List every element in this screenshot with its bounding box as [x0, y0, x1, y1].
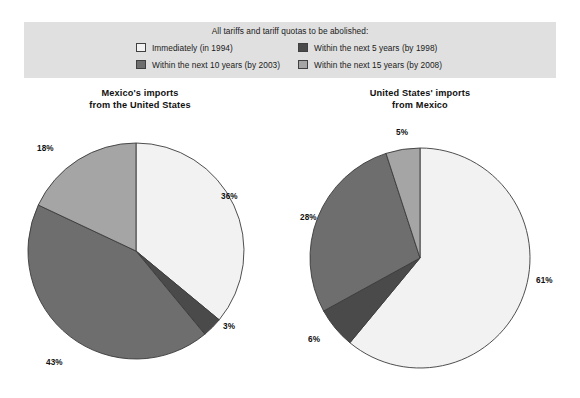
- pie-right-label-five-years: 6%: [308, 335, 320, 344]
- legend-row: Within the next 10 years (by 2003) Withi…: [136, 56, 556, 73]
- legend-label-fifteen-years: Within the next 15 years (by 2008): [314, 60, 442, 70]
- pie-right-label-fifteen-years: 5%: [396, 128, 408, 137]
- chart-title-right-line1: United States' imports: [330, 88, 510, 100]
- legend-swatch-five-years: [298, 43, 308, 52]
- legend-row: Immediately (in 1994) Within the next 5 …: [136, 39, 556, 56]
- pie-left-svg: [18, 130, 268, 380]
- legend-label-immediately: Immediately (in 1994): [152, 43, 233, 53]
- chart-title-right-line2: from Mexico: [330, 100, 510, 112]
- legend-swatch-immediately: [136, 43, 146, 52]
- legend-item-ten-years: Within the next 10 years (by 2003): [136, 56, 298, 73]
- legend-grid: Immediately (in 1994) Within the next 5 …: [136, 39, 556, 73]
- legend-swatch-ten-years: [136, 60, 146, 69]
- chart-title-left-line1: Mexico's imports: [50, 88, 230, 100]
- figure-root: All tariffs and tariff quotas to be abol…: [0, 0, 580, 398]
- pie-right-label-ten-years: 28%: [300, 213, 317, 222]
- legend-title: All tariffs and tariff quotas to be abol…: [24, 26, 556, 36]
- legend-panel: All tariffs and tariff quotas to be abol…: [24, 22, 556, 78]
- pie-left-label-immediately: 36%: [221, 192, 238, 201]
- legend-item-five-years: Within the next 5 years (by 1998): [298, 39, 518, 56]
- pie-right-label-immediately: 61%: [536, 276, 553, 285]
- pie-chart-right: 61% 6% 28% 5%: [300, 128, 560, 380]
- pie-left-label-fifteen-years: 18%: [37, 144, 54, 153]
- pie-chart-left: 36% 3% 43% 18%: [18, 130, 268, 380]
- legend-item-fifteen-years: Within the next 15 years (by 2008): [298, 56, 518, 73]
- legend-swatch-fifteen-years: [298, 60, 308, 69]
- chart-title-left-line2: from the United States: [50, 100, 230, 112]
- legend-label-ten-years: Within the next 10 years (by 2003): [152, 60, 280, 70]
- chart-title-left: Mexico's imports from the United States: [50, 88, 230, 111]
- chart-title-right: United States' imports from Mexico: [330, 88, 510, 111]
- pie-right-svg: [300, 128, 560, 380]
- legend-label-five-years: Within the next 5 years (by 1998): [314, 43, 437, 53]
- legend-item-immediately: Immediately (in 1994): [136, 39, 298, 56]
- pie-left-label-ten-years: 43%: [46, 358, 63, 367]
- pie-left-label-five-years: 3%: [223, 322, 235, 331]
